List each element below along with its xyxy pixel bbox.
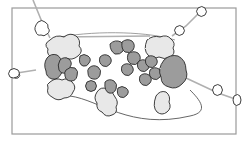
diagram-canvas [0,0,248,142]
region-map-diagram [0,0,248,142]
